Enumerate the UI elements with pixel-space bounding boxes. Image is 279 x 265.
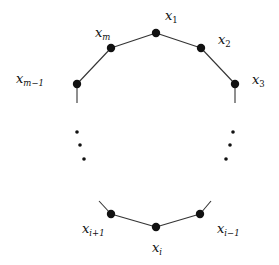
label-xi+1: xi+1 [82, 221, 105, 238]
edge-xm-x1 [111, 33, 156, 48]
label-x2: x2 [218, 32, 231, 49]
ellipsis-dots [75, 130, 235, 161]
ellipsis-dot-left [78, 143, 82, 147]
node-x1 [152, 29, 160, 37]
label-xi-1: xi−1 [217, 221, 240, 238]
label-xi: xi [152, 240, 162, 257]
label-x1: x1 [165, 8, 178, 25]
edges [77, 33, 235, 227]
nodes [73, 29, 239, 231]
edge-x2-x3 [201, 48, 235, 84]
edge-xi-xi-1 [156, 214, 200, 227]
edge-stubs [77, 84, 235, 214]
node-xm [107, 44, 115, 52]
node-x3 [231, 80, 239, 88]
ellipsis-dot-right [224, 157, 228, 161]
node-xi [152, 223, 160, 231]
label-xm-1: xm−1 [16, 71, 44, 88]
edge-xm-1-xm [77, 48, 111, 84]
ellipsis-dot-left [75, 130, 79, 134]
label-xm: xm [95, 25, 110, 42]
label-x3: x3 [252, 72, 265, 89]
ellipsis-dot-right [228, 143, 232, 147]
node-xi-1 [196, 210, 204, 218]
edge-xi+1-xi [111, 214, 156, 227]
ellipsis-dot-right [231, 130, 235, 134]
edge-x1-x2 [156, 33, 201, 48]
node-xm-1 [73, 80, 81, 88]
node-labels: x1x2x3xmxm−1xi+1xixi−1 [16, 8, 265, 257]
node-xi+1 [107, 210, 115, 218]
node-x2 [197, 44, 205, 52]
cycle-diagram: x1x2x3xmxm−1xi+1xixi−1 [0, 0, 279, 265]
ellipsis-dot-left [82, 157, 86, 161]
